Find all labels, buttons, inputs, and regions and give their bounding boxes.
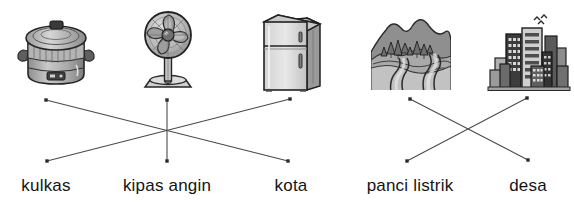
- connector-node-label-kota[interactable]: [286, 159, 289, 162]
- label-panci-listrik[interactable]: panci listrik: [348, 176, 472, 196]
- connector-node-pic-rice-cooker[interactable]: [44, 98, 47, 101]
- label-kipas-angin[interactable]: kipas angin: [107, 176, 227, 196]
- label-desa[interactable]: desa: [482, 176, 574, 196]
- picture-village[interactable]: [369, 8, 453, 92]
- connector-node-label-kulkas[interactable]: [45, 159, 48, 162]
- connector-node-label-kipas-angin[interactable]: [165, 159, 168, 162]
- connection-village-to-desa[interactable]: [410, 99, 528, 160]
- connector-node-label-panci-listrik[interactable]: [405, 159, 408, 162]
- connection-city-to-panci-listrik[interactable]: [407, 98, 527, 161]
- rice-cooker-icon: [14, 8, 98, 92]
- picture-refrigerator[interactable]: [255, 10, 327, 92]
- connector-node-label-desa[interactable]: [526, 158, 529, 161]
- city-skyline-icon: [487, 8, 571, 92]
- connector-node-pic-electric-fan[interactable]: [165, 98, 168, 101]
- picture-electric-fan[interactable]: [128, 6, 208, 92]
- connector-node-pic-refrigerator[interactable]: [288, 97, 291, 100]
- matching-worksheet: kulkas kipas angin kota panci listrik de…: [0, 0, 574, 207]
- connection-refrigerator-to-kulkas[interactable]: [47, 99, 290, 161]
- picture-city[interactable]: [487, 8, 571, 92]
- refrigerator-icon: [255, 10, 327, 92]
- village-landscape-icon: [369, 8, 453, 92]
- label-kota[interactable]: kota: [245, 176, 337, 196]
- connector-node-pic-city[interactable]: [525, 96, 528, 99]
- label-kulkas[interactable]: kulkas: [0, 176, 92, 196]
- connection-rice-cooker-to-kota[interactable]: [46, 100, 288, 161]
- picture-rice-cooker[interactable]: [14, 8, 98, 92]
- electric-fan-icon: [128, 6, 208, 92]
- connector-node-pic-village[interactable]: [408, 97, 411, 100]
